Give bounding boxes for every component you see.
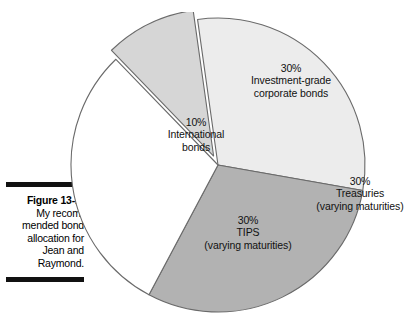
- pie-label-treasuries: 30% Treasuries (varying maturities): [287, 175, 408, 212]
- pie-chart-svg: [68, 12, 378, 324]
- pie-label-tips-percent: 30%: [172, 214, 324, 226]
- pie-label-treasuries-percent: 30%: [287, 175, 408, 187]
- pie-label-corporate-bonds: 30% Investment-grade corporate bonds: [216, 62, 366, 99]
- pie-slice-corporate-bonds[interactable]: [198, 18, 365, 191]
- pie-label-corporate-line2: corporate bonds: [216, 87, 366, 99]
- pie-label-corporate-line1: Investment-grade: [216, 74, 366, 86]
- pie-label-treasuries-line2: (varying maturities): [287, 200, 408, 212]
- pie-label-international-bonds: 10% International bonds: [146, 116, 246, 153]
- pie-label-tips-line1: TIPS: [172, 226, 324, 238]
- pie-label-tips-line2: (varying maturities): [172, 239, 324, 251]
- pie-label-international-percent: 10%: [146, 116, 246, 128]
- pie-label-international-line2: bonds: [146, 141, 246, 153]
- pie-chart: 30% Investment-grade corporate bonds 10%…: [68, 12, 378, 324]
- pie-label-international-line1: International: [146, 128, 246, 140]
- pie-label-treasuries-line1: Treasuries: [287, 187, 408, 199]
- pie-label-corporate-percent: 30%: [216, 62, 366, 74]
- pie-label-tips: 30% TIPS (varying maturities): [172, 214, 324, 251]
